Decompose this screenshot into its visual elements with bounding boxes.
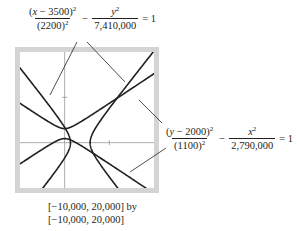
fraction-2: y2 7,410,000 — [92, 6, 138, 32]
equation-hyperbola-2: (y − 2000)2 (1100)2 − x2 2,790,000 = 1 — [164, 126, 297, 152]
window-x-range: [−10,000, 20,000] by — [48, 200, 137, 213]
fraction-1: (x − 3500)2 (2200)2 — [27, 6, 78, 32]
equals-one: = 1 — [142, 13, 156, 25]
equation-hyperbola-1: (x − 3500)2 (2200)2 − y2 7,410,000 = 1 — [27, 6, 160, 32]
graph-frame — [18, 50, 157, 191]
equals-one: = 1 — [279, 133, 293, 145]
window-y-range: [−10,000, 20,000] — [48, 213, 137, 226]
graph-plot — [0, 0, 297, 231]
viewing-window-label: [−10,000, 20,000] by [−10,000, 20,000] — [48, 200, 137, 226]
minus-sign: − — [82, 13, 88, 25]
fraction-1: (y − 2000)2 (1100)2 — [164, 126, 215, 152]
minus-sign: − — [219, 133, 225, 145]
fraction-2: x2 2,790,000 — [229, 126, 275, 152]
